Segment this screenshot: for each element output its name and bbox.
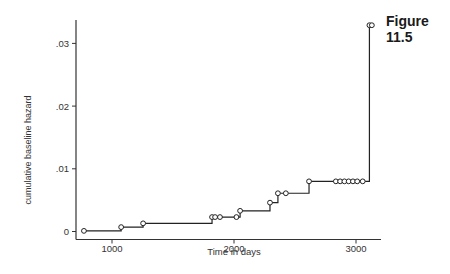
x-tick-label: 2000 [223,243,244,254]
data-point-marker [119,225,124,230]
data-point-marker [82,228,87,233]
chart-plot-area: 0.01.02.03100020003000 [0,0,450,274]
data-series [82,23,375,233]
data-point-marker [369,23,374,28]
y-tick-label: .02 [56,101,69,112]
data-point-marker [238,208,243,213]
data-point-marker [283,191,288,196]
data-point-marker [276,191,281,196]
x-tick-label: 3000 [345,243,366,254]
y-tick-label: .01 [56,163,69,174]
data-point-marker [141,221,146,226]
data-point-marker [218,215,223,220]
data-point-marker [234,215,239,220]
data-point-marker [307,179,312,184]
data-point-marker [360,179,365,184]
step-line [84,25,372,231]
data-point-marker [355,179,360,184]
data-point-marker [213,215,218,220]
x-tick-label: 1000 [101,243,122,254]
data-point-marker [268,200,273,205]
y-tick-label: 0 [64,226,69,237]
y-tick-label: .03 [56,38,69,49]
